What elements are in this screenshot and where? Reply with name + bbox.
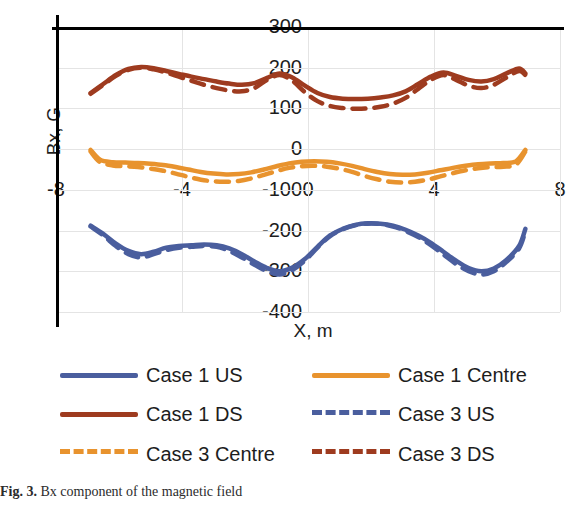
- legend-label: Case 1 DS: [146, 403, 243, 426]
- figure-magnetic-field-bx: Bx, G X, m 3002001000-100-200-300-400 -8…: [0, 0, 587, 505]
- plot-area: [56, 27, 560, 312]
- legend-label: Case 3 Centre: [146, 443, 275, 466]
- legend-label: Case 3 US: [398, 403, 495, 426]
- caption-number: Fig. 3.: [0, 484, 37, 499]
- legend-label: Case 1 Centre: [398, 364, 527, 387]
- caption-text: Bx component of the magnetic field: [40, 484, 242, 499]
- legend-swatch-icon: [60, 373, 138, 378]
- legend-item[interactable]: Case 1 Centre: [312, 356, 560, 395]
- legend-item[interactable]: Case 3 Centre: [60, 435, 308, 474]
- chart-canvas: Bx, G X, m 3002001000-100-200-300-400 -8…: [0, 0, 587, 348]
- gridline-vertical: [560, 27, 561, 312]
- legend-swatch-icon: [60, 412, 138, 417]
- chart-legend: Case 1 USCase 1 CentreCase 1 DSCase 3 US…: [60, 356, 560, 474]
- legend-swatch-icon: [60, 449, 138, 459]
- legend-swatch-icon: [312, 410, 390, 420]
- gridline-horizontal: [56, 312, 560, 313]
- series-line: [91, 223, 526, 271]
- legend-item[interactable]: Case 3 US: [312, 395, 560, 434]
- legend-item[interactable]: Case 1 US: [60, 356, 308, 395]
- x-axis-title: X, m: [258, 320, 368, 342]
- legend-item[interactable]: Case 3 DS: [312, 435, 560, 474]
- legend-swatch-icon: [312, 449, 390, 459]
- legend-label: Case 3 DS: [398, 443, 495, 466]
- figure-caption: Fig. 3. Bx component of the magnetic fie…: [0, 484, 587, 500]
- legend-item[interactable]: Case 1 DS: [60, 395, 308, 434]
- series-curves: [56, 27, 560, 312]
- legend-label: Case 1 US: [146, 364, 243, 387]
- legend-swatch-icon: [312, 373, 390, 378]
